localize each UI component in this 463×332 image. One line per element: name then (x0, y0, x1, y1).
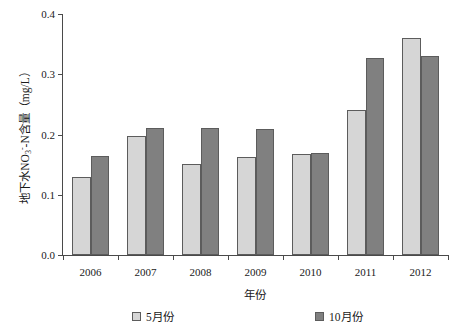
bar-2008-may (182, 164, 201, 255)
y-axis-title: 地下水NO3--N含量（mg/L） (14, 14, 32, 256)
bar-2011-oct (366, 58, 385, 255)
x-axis-tick-label-2010: 2010 (300, 266, 322, 278)
bar-2010-may (292, 154, 311, 255)
bar-2011-may (347, 110, 366, 255)
y-axis-title-subscript: 3 (24, 150, 33, 154)
plot-area: 0.00.10.20.30.42006200720082009201020112… (62, 14, 448, 256)
bar-2012-may (402, 38, 421, 255)
x-axis-tick-label-2009: 2009 (245, 266, 267, 278)
x-axis-tick (338, 255, 339, 260)
y-axis-title-suffix: -N含量（mg/L） (19, 66, 31, 147)
y-axis-tick-label: 0.3 (41, 68, 55, 80)
legend-entry-oct: 10月份 (315, 308, 363, 324)
y-axis-tick-label: 0.1 (41, 189, 55, 201)
bar-2009-may (237, 157, 256, 255)
y-axis-tick-label: 0.0 (41, 249, 55, 261)
x-axis-tick (118, 255, 119, 260)
y-axis-title-prefix: 地下水NO (19, 154, 31, 204)
x-axis-tick-label-2011: 2011 (355, 266, 377, 278)
x-axis-tick-label-2006: 2006 (80, 266, 102, 278)
x-axis-tick (393, 255, 394, 260)
y-axis-tick (58, 135, 63, 136)
legend-label-oct: 10月份 (329, 308, 363, 324)
bar-2012-oct (421, 56, 440, 255)
y-axis-tick-label: 0.4 (41, 8, 55, 20)
legend-swatch-oct-icon (315, 312, 324, 321)
chart-legend: 5月份 10月份 (62, 308, 448, 324)
x-axis-title: 年份 (62, 286, 448, 302)
y-axis-tick (58, 195, 63, 196)
x-axis-tick (448, 255, 449, 260)
y-axis-tick (58, 74, 63, 75)
x-axis-tick-label-2012: 2012 (410, 266, 432, 278)
x-axis-tick-label-2007: 2007 (135, 266, 157, 278)
legend-entry-may: 5月份 (132, 308, 174, 324)
y-axis-title-superscript: - (18, 147, 27, 150)
bar-2006-oct (91, 156, 110, 255)
legend-swatch-may-icon (132, 312, 141, 321)
y-axis-tick-label: 0.2 (41, 129, 55, 141)
bar-2010-oct (311, 153, 330, 255)
x-axis-tick-label-2008: 2008 (190, 266, 212, 278)
x-axis-tick (173, 255, 174, 260)
legend-label-may: 5月份 (146, 308, 174, 324)
y-axis-tick (58, 14, 63, 15)
bar-chart: 地下水NO3--N含量（mg/L） 0.00.10.20.30.42006200… (0, 0, 463, 332)
bar-2007-may (127, 136, 146, 255)
bar-2006-may (72, 177, 91, 255)
x-axis-tick (63, 255, 64, 260)
bar-2009-oct (256, 129, 275, 255)
bar-2008-oct (201, 128, 220, 255)
bar-2007-oct (146, 128, 165, 255)
x-axis-tick (283, 255, 284, 260)
x-axis-tick (228, 255, 229, 260)
